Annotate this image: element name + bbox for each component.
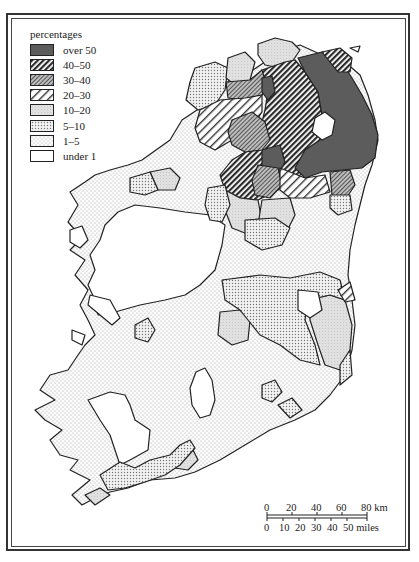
swatch-solid-dark bbox=[30, 44, 54, 56]
swatch-dense-dots bbox=[30, 120, 54, 132]
legend-label: 30–40 bbox=[63, 74, 91, 86]
swatch-wide-hatch bbox=[30, 89, 54, 101]
scale-mile-tick: 40 bbox=[327, 522, 338, 533]
swatch-dense-hatch bbox=[30, 59, 54, 71]
legend-label: under 1 bbox=[63, 150, 96, 162]
legend-item-1-5: 1–5 bbox=[30, 133, 96, 148]
legend-label: 1–5 bbox=[63, 135, 80, 147]
legend-label: 10–20 bbox=[63, 104, 91, 116]
scale-mile-tick: 20 bbox=[295, 522, 306, 533]
scale-mile-tick: 0 bbox=[264, 522, 269, 533]
legend-item-under-1: under 1 bbox=[30, 148, 96, 163]
island-aran bbox=[72, 330, 85, 345]
swatch-sparse-dots bbox=[30, 135, 54, 147]
legend-item-20-30: 20–30 bbox=[30, 88, 96, 103]
scale-mile-tick: 30 bbox=[311, 522, 322, 533]
scale-mile-labels: 0 10 20 30 40 50 miles bbox=[266, 522, 386, 534]
scale-km-tick: 20 bbox=[286, 502, 297, 513]
swatch-blank bbox=[30, 150, 54, 162]
scale-km-tick: 60 bbox=[336, 502, 347, 513]
legend-title: percentages bbox=[30, 28, 96, 40]
scale-km-labels: 0 20 40 60 80 km bbox=[266, 502, 386, 514]
scale-mile-tick: 50 miles bbox=[343, 522, 379, 533]
scale-km-tick: 40 bbox=[311, 502, 322, 513]
map-legend: percentages over 50 40–50 30–40 20–30 10… bbox=[30, 28, 96, 164]
island-rathlin bbox=[350, 46, 360, 52]
scale-km-tick: 0 bbox=[264, 502, 269, 513]
legend-label: 5–10 bbox=[63, 120, 85, 132]
legend-label: 20–30 bbox=[63, 89, 91, 101]
scale-km-tick: 80 km bbox=[361, 502, 388, 513]
swatch-light-grey bbox=[30, 104, 54, 116]
scale-bar: 0 20 40 60 80 km 0 10 20 30 40 50 miles bbox=[266, 502, 386, 534]
legend-label: over 50 bbox=[63, 44, 96, 56]
swatch-cross-grey bbox=[30, 74, 54, 86]
scale-mile-tick: 10 bbox=[279, 522, 290, 533]
legend-item-10-20: 10–20 bbox=[30, 103, 96, 118]
legend-label: 40–50 bbox=[63, 59, 91, 71]
legend-item-over-50: over 50 bbox=[30, 42, 96, 57]
legend-item-30-40: 30–40 bbox=[30, 72, 96, 87]
scale-bar-spacer bbox=[266, 514, 386, 522]
legend-item-5-10: 5–10 bbox=[30, 118, 96, 133]
legend-item-40-50: 40–50 bbox=[30, 57, 96, 72]
